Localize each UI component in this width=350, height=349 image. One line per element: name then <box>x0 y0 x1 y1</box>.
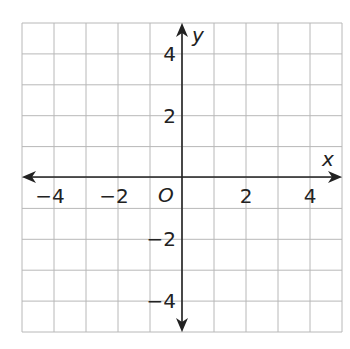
x-tick-label: 4 <box>304 184 317 208</box>
x-tick-label: −2 <box>99 184 128 208</box>
y-tick-label: 4 <box>163 42 176 66</box>
x-tick-label: 2 <box>240 184 253 208</box>
x-axis-label: x <box>321 147 334 171</box>
y-axis-label: y <box>191 23 205 47</box>
y-tick-label: 2 <box>163 104 176 128</box>
x-tick-label: −4 <box>35 184 64 208</box>
axes <box>22 23 342 332</box>
y-tick-label: −2 <box>147 227 176 251</box>
y-tick-label: −4 <box>147 289 176 313</box>
origin-label: O <box>158 183 174 207</box>
coordinate-plane: −4−22442−2−4 x y O <box>0 0 350 349</box>
